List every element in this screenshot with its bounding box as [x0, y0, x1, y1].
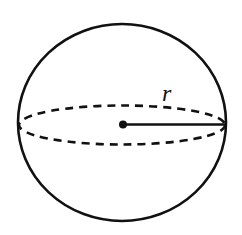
radius-label: r [162, 80, 172, 106]
sphere-diagram: r [0, 0, 242, 235]
center-point [119, 121, 127, 129]
